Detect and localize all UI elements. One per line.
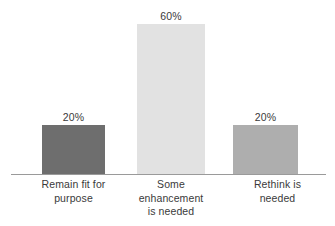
category-label-line: Rethink is [224, 178, 331, 192]
category-label-line: Some [112, 178, 230, 192]
category-axis-line [11, 174, 326, 175]
bar-chart: 20% 60% 20% Remain fit for purpose Some … [0, 0, 335, 226]
category-label-line: enhancement [112, 192, 230, 206]
bar-remain-fit-for-purpose [42, 125, 105, 175]
category-label-some-enhancement-is-needed: Some enhancement is needed [112, 178, 230, 219]
plot-area: 20% 60% 20% [0, 0, 335, 176]
value-label-rethink-is-needed: 20% [233, 111, 298, 123]
bar-some-enhancement-is-needed [137, 24, 205, 175]
bar-rethink-is-needed [233, 125, 298, 175]
value-label-some-enhancement-is-needed: 60% [137, 10, 205, 22]
category-label-rethink-is-needed: Rethink is needed [224, 178, 331, 205]
value-label-remain-fit-for-purpose: 20% [42, 111, 105, 123]
category-axis-labels: Remain fit for purpose Some enhancement … [0, 178, 335, 226]
category-label-line: is needed [112, 205, 230, 219]
category-label-line: needed [224, 192, 331, 206]
